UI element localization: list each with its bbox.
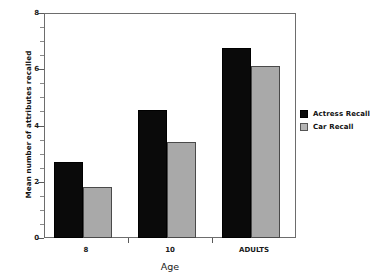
y-tick-minor — [40, 210, 44, 211]
y-tick-minor — [40, 224, 44, 225]
y-tick-label: 6 — [13, 65, 39, 73]
y-tick-minor — [40, 41, 44, 42]
y-tick-label: 8 — [13, 9, 39, 17]
y-tick-minor — [40, 196, 44, 197]
y-tick-minor — [40, 55, 44, 56]
y-tick-minor — [40, 97, 44, 98]
bar-adults-car-recall — [251, 66, 280, 238]
bar-8-actress-recall — [54, 162, 83, 238]
y-tick-minor — [40, 83, 44, 84]
chart-legend: Actress RecallCar Recall — [300, 110, 384, 136]
bar-adults-actress-recall — [222, 48, 251, 238]
y-tick-minor — [40, 168, 44, 169]
legend-item: Actress Recall — [300, 110, 384, 118]
x-tick — [212, 238, 213, 243]
x-tick — [128, 238, 129, 243]
legend-label: Actress Recall — [313, 110, 370, 118]
y-tick-label: 2 — [13, 178, 39, 186]
x-tick-label: 8 — [51, 246, 121, 254]
bar-8-car-recall — [83, 187, 112, 238]
y-tick-label: 0 — [13, 234, 39, 242]
legend-item: Car Recall — [300, 123, 384, 131]
legend-label: Car Recall — [313, 123, 354, 131]
x-tick-label: 10 — [135, 246, 205, 254]
bar-10-car-recall — [167, 142, 196, 238]
y-tick-minor — [40, 111, 44, 112]
legend-swatch-icon — [300, 110, 308, 118]
x-tick-label: ADULTS — [219, 246, 289, 254]
y-tick-minor — [40, 27, 44, 28]
x-axis-title: Age — [44, 261, 296, 272]
bar-chart: Mean number of attributes recalled 02468… — [0, 0, 389, 280]
y-tick-minor — [40, 154, 44, 155]
bar-10-actress-recall — [138, 110, 167, 238]
legend-swatch-icon — [300, 123, 308, 131]
y-tick-label: 4 — [13, 122, 39, 130]
y-tick-minor — [40, 140, 44, 141]
